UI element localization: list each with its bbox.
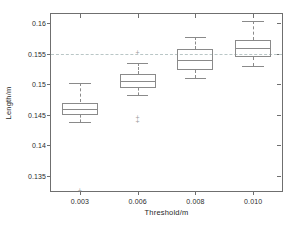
x-axis-tick-label: 0.010 [244,198,262,205]
lower-whisker-cap [242,66,264,67]
y-axis-tick-label: 0.135 [28,172,46,179]
lower-whisker-stem [253,57,254,66]
plot-area: 0.1350.140.1450.150.1550.160.0030.0060.0… [50,13,283,192]
x-axis-tick [253,191,254,195]
x-axis-tick-label: 0.003 [71,198,89,205]
x-axis-tick-label: 0.006 [129,198,147,205]
upper-whisker-stem [253,21,254,39]
median-line [235,48,271,49]
boxplot-figure: 0.1350.140.1450.150.1550.160.0030.0060.0… [0,0,291,226]
y-axis-tick-label: 0.14 [32,142,46,149]
y-axis-tick-label: 0.15 [32,81,46,88]
x-axis-tick-label: 0.008 [186,198,204,205]
x-axis-tick [138,191,139,195]
y-axis-tick-label: 0.16 [32,20,46,27]
y-axis-tick-label: 0.145 [28,111,46,118]
y-axis-title: Length/m [4,87,13,120]
x-axis-tick [195,191,196,195]
x-axis-title: Threshold/m [50,208,283,217]
boxplot-box-group [51,14,282,191]
upper-whisker-cap [242,21,264,22]
y-axis-tick-label: 0.155 [28,50,46,57]
